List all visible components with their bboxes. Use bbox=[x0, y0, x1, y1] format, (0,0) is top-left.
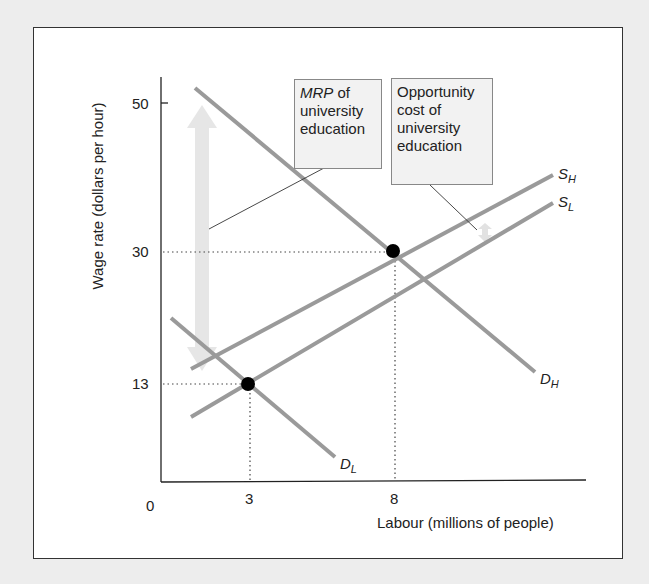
equilibrium-point-high bbox=[386, 244, 400, 258]
mrp-abbrev: MRP bbox=[300, 84, 333, 101]
y-axis-label: Wage rate (dollars per hour) bbox=[89, 102, 106, 289]
curve-label-s-l: SL bbox=[558, 193, 574, 216]
mrp-annotation-box: MRP of university education bbox=[294, 79, 382, 169]
y-tick-label-30: 30 bbox=[132, 243, 149, 261]
y-tick-label-13: 13 bbox=[132, 375, 149, 393]
opportunity-cost-annotation-box: Opportunity cost of university education bbox=[391, 78, 493, 185]
equilibrium-point-low bbox=[241, 377, 255, 391]
origin-label: 0 bbox=[146, 497, 154, 515]
curve-label-d-h: DH bbox=[540, 370, 559, 393]
x-tick-label-8: 8 bbox=[390, 490, 398, 508]
mrp-leader-line bbox=[209, 168, 324, 229]
x-axis bbox=[161, 480, 586, 482]
curve-label-d-l: DL bbox=[340, 455, 357, 478]
mrp-double-arrow-icon bbox=[187, 105, 217, 371]
y-tick-label-50: 50 bbox=[132, 95, 149, 113]
opp-leader-line bbox=[430, 185, 477, 230]
curve-label-s-h: SH bbox=[558, 165, 576, 188]
x-tick-label-3: 3 bbox=[245, 490, 253, 508]
x-axis-label: Labour (millions of people) bbox=[377, 514, 554, 532]
